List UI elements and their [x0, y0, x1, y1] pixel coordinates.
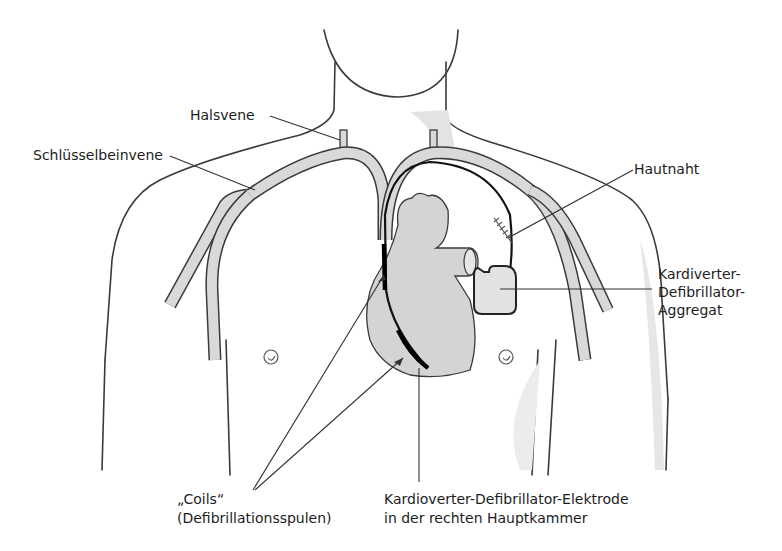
label-elektrode: Kardioverter-Defibrillator-Elektrode in … — [384, 490, 629, 528]
leader-coils-1 — [253, 275, 384, 490]
jaw-outline — [324, 30, 458, 97]
arm-right-inner — [548, 340, 556, 475]
leader-halsvene — [270, 116, 340, 140]
leader-schluesselbein — [170, 156, 255, 190]
label-coils-line1: „Coils“ — [177, 490, 332, 509]
label-aggregat-line3: Aggregat — [658, 301, 745, 319]
label-aggregat-line1: Kardiverter- — [658, 265, 745, 283]
torso-left-lower — [102, 360, 105, 470]
label-coils: „Coils“ (Defibrillationsspulen) — [177, 490, 332, 528]
label-aggregat-line2: Defibrillator- — [658, 283, 745, 301]
leader-coils-2 — [255, 358, 403, 490]
label-elektrode-line2: in der rechten Hauptkammer — [384, 509, 629, 528]
nipple-right — [499, 350, 513, 364]
icd-generator — [474, 266, 516, 314]
label-aggregat: Kardiverter- Defibrillator- Aggregat — [658, 265, 745, 319]
label-elektrode-line1: Kardioverter-Defibrillator-Elektrode — [384, 490, 629, 509]
label-halsvene: Halsvene — [190, 107, 255, 124]
torso-right-lower — [666, 400, 668, 470]
coil-upper — [384, 244, 385, 290]
label-hautnaht: Hautnaht — [634, 161, 699, 178]
label-schluesselbeinvene: Schlüsselbeinvene — [33, 147, 163, 164]
skin-suture — [494, 218, 512, 243]
nipple-left — [264, 350, 278, 364]
arm-left-inner — [226, 340, 230, 475]
label-coils-line2: (Defibrillationsspulen) — [177, 509, 332, 528]
